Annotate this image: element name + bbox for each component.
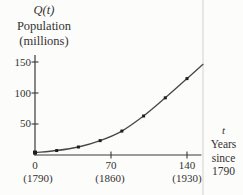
x-tick-label-0: 0 xyxy=(13,159,57,171)
year-label-1790: (1790) xyxy=(12,172,64,184)
y-tick-label-150: 150 xyxy=(0,56,31,68)
population-growth-figure: Q(t) Population (millions) 150 100 50 0 … xyxy=(0,0,243,195)
model-curve xyxy=(35,64,203,153)
year-label-1860: (1860) xyxy=(84,172,136,184)
y-tick-label-100: 100 xyxy=(0,87,31,99)
data-point-1870 xyxy=(120,130,123,133)
x-axis-title: t Years since 1790 xyxy=(205,124,242,179)
x-tick-label-140: 140 xyxy=(165,159,209,171)
data-point-1910 xyxy=(164,96,167,99)
data-point-1830 xyxy=(77,146,80,149)
y-tick-label-50: 50 xyxy=(0,117,31,129)
data-point-1890 xyxy=(142,115,145,118)
y-axis-title-word: Population xyxy=(13,19,75,35)
data-point-1930 xyxy=(186,77,189,80)
data-point-1810 xyxy=(55,149,58,152)
x-axis-title-word-1: Years xyxy=(205,138,242,152)
y-axis-title-symbol: Q(t) xyxy=(13,3,75,19)
x-axis-title-symbol: t xyxy=(205,124,242,138)
y-axis-title-units: (millions) xyxy=(13,34,75,50)
y-axis-title: Q(t) Population (millions) xyxy=(13,3,75,50)
data-point-1790 xyxy=(33,151,37,155)
x-tick-label-70: 70 xyxy=(89,159,133,171)
x-axis-title-word-3: 1790 xyxy=(205,165,242,179)
x-axis-title-word-2: since xyxy=(205,152,242,166)
data-point-1850 xyxy=(99,139,102,142)
